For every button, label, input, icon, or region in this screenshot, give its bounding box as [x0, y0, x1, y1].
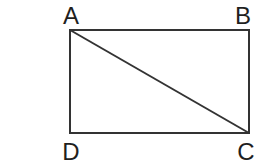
rectangle-diagram-svg: A B C D: [0, 0, 260, 163]
vertex-label-c: C: [237, 138, 254, 163]
vertex-label-b: B: [235, 2, 251, 29]
vertex-label-a: A: [63, 2, 79, 29]
diagonal-line-ac: [70, 30, 249, 133]
geometry-diagram-canvas: A B C D: [0, 0, 260, 163]
vertex-label-d: D: [62, 138, 79, 163]
